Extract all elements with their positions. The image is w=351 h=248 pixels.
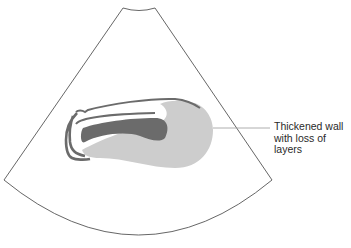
annotation-label-thickened-wall: Thickened wall with loss of layers [274,121,343,156]
ultrasound-diagram: Thickened wall with loss of layers [0,0,351,248]
